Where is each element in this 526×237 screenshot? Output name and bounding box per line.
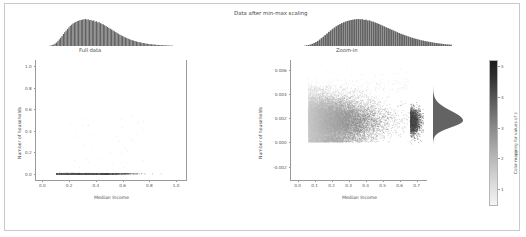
y-tick	[34, 88, 36, 89]
x-tick	[298, 180, 299, 182]
colorbar-tick-label: 4	[501, 94, 504, 99]
x-tick	[417, 180, 418, 182]
y-tick	[289, 94, 291, 95]
zoom-in-ylabel: Number of households	[258, 107, 263, 159]
colorbar-tick	[498, 158, 500, 159]
y-tick-label: 0.0	[25, 171, 32, 176]
colorbar-tick-label: 5	[501, 64, 504, 69]
y-tick	[289, 167, 291, 168]
x-tick	[383, 180, 384, 182]
x-tick-label: 0.0	[39, 183, 46, 188]
x-tick-label: 0.4	[92, 183, 99, 188]
y-tick-label: 0.004	[275, 91, 287, 96]
colorbar-tick	[498, 97, 500, 98]
colorbar-gradient	[489, 60, 498, 206]
x-tick	[69, 180, 70, 182]
colorbar-tick-label: 3	[501, 125, 504, 130]
x-tick	[149, 180, 150, 182]
zoom-in-xlabel: Median Income	[342, 195, 377, 200]
x-tick	[42, 180, 43, 182]
colorbar-tick	[498, 66, 500, 67]
x-tick	[349, 180, 350, 182]
y-tick	[34, 109, 36, 110]
zoom-in-x-axis	[290, 180, 427, 181]
colorbar-label: Color mapping for values of z	[513, 112, 518, 174]
x-tick	[366, 180, 367, 182]
colorbar-tick-label: 2	[501, 156, 504, 161]
x-tick-label: 0.6	[119, 183, 126, 188]
full-data-x-axis	[35, 180, 187, 181]
y-tick-label: 0.4	[25, 128, 32, 133]
colorbar-tick-label: 1	[501, 187, 504, 192]
x-tick	[123, 180, 124, 182]
y-tick-label: 0.006	[275, 67, 287, 72]
zoom-in-marginal-x	[288, 15, 468, 46]
y-tick	[34, 66, 36, 67]
x-tick	[400, 180, 401, 182]
x-tick-label: 0.0	[294, 183, 301, 188]
colorbar-tick	[498, 128, 500, 129]
x-tick	[332, 180, 333, 182]
y-tick-label: 1.0	[25, 64, 32, 69]
y-tick-label: 0.002	[275, 116, 287, 121]
full-data-xlabel: Median Income	[94, 195, 129, 200]
full-data-marginal-x	[35, 15, 187, 46]
x-tick-label: 0.8	[146, 183, 153, 188]
full-data-title: Full data	[79, 47, 101, 53]
zoom-in-scatter	[291, 60, 427, 180]
full-data-ylabel: Number of households	[17, 107, 22, 159]
x-tick-label: 0.7	[413, 183, 420, 188]
y-tick-label: 0.2	[25, 150, 32, 155]
colorbar-tick	[498, 189, 500, 190]
y-tick	[34, 131, 36, 132]
y-tick-label: -0.002	[273, 164, 287, 169]
zoom-in-marginal-y	[431, 60, 471, 180]
x-tick-label: 0.4	[362, 183, 369, 188]
y-tick-label: 0.6	[25, 107, 32, 112]
x-tick-label: 0.2	[328, 183, 335, 188]
y-tick	[289, 70, 291, 71]
x-tick-label: 0.5	[379, 183, 386, 188]
y-tick	[34, 152, 36, 153]
x-tick-label: 0.1	[311, 183, 318, 188]
y-tick	[289, 142, 291, 143]
y-tick	[289, 118, 291, 119]
x-tick-label: 0.3	[345, 183, 352, 188]
x-tick	[96, 180, 97, 182]
x-tick-label: 1.0	[173, 183, 180, 188]
x-tick-label: 0.2	[66, 183, 73, 188]
x-tick	[176, 180, 177, 182]
x-tick	[315, 180, 316, 182]
figure-frame: Data after min-max scaling Full data Num…	[4, 3, 520, 231]
y-tick	[34, 174, 36, 175]
x-tick-label: 0.6	[396, 183, 403, 188]
y-tick-label: 0.000	[275, 140, 287, 145]
zoom-in-title: Zoom-in	[336, 47, 358, 53]
full-data-scatter	[36, 60, 187, 180]
y-tick-label: 0.8	[25, 85, 32, 90]
